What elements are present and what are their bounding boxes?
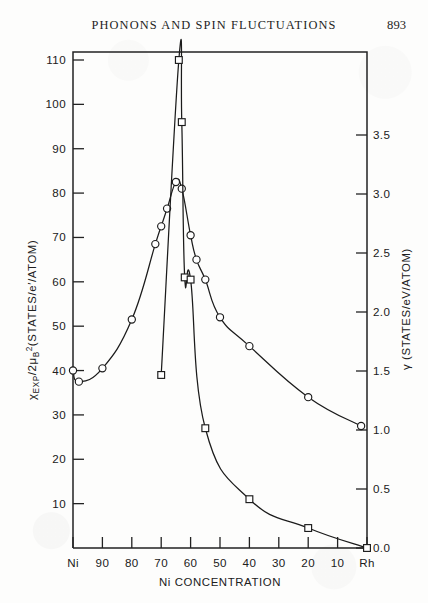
x-axis-tick-label: 70 [154, 556, 168, 569]
data-point-marker [75, 378, 82, 385]
y-axis-left-tick-label: 60 [52, 275, 66, 288]
x-axis-tick-label: 80 [125, 556, 139, 569]
y-axis-right-tick-label: 0.5 [373, 482, 390, 495]
series-line [73, 179, 361, 426]
y-axis-right-tick-label: 3.0 [373, 187, 390, 200]
y-axis-right-tick-label: 2.0 [373, 305, 390, 318]
data-point-marker [216, 314, 223, 321]
data-point-marker [193, 256, 200, 263]
susceptibility-gamma-chart: 110100908070605040302010 3.53.02.52.01.5… [0, 0, 428, 603]
data-point-marker [364, 545, 371, 552]
y-axis-left-tick-label: 20 [52, 452, 66, 465]
data-point-marker [358, 422, 365, 429]
y-axis-left-ticks: 110100908070605040302010 [45, 53, 84, 510]
data-point-marker [69, 367, 76, 374]
data-point-marker [152, 241, 159, 248]
y-axis-right-tick-label: 1.0 [373, 423, 390, 436]
series-line [161, 39, 367, 548]
y-axis-left-tick-label: 30 [52, 408, 66, 421]
x-axis-tick-label: 60 [184, 556, 198, 569]
y-axis-left-title: χEXP/2μB2(STATES/e′/ATOM) [25, 240, 41, 400]
y-axis-left-tick-label: 70 [52, 230, 66, 243]
x-axis-ticks: Ni908070605040302010Rh [67, 537, 375, 569]
x-axis-tick-label: 20 [301, 556, 315, 569]
data-point-marker [172, 178, 179, 185]
data-point-marker [202, 276, 209, 283]
y-axis-left-tick-label: 100 [45, 97, 66, 110]
data-point-marker [175, 57, 182, 64]
x-axis-tick-label: Ni [67, 556, 79, 569]
y-axis-left-tick-label: 80 [52, 186, 66, 199]
x-axis-tick-label: Rh [359, 556, 375, 569]
x-axis-tick-label: 50 [213, 556, 227, 569]
figure-page: PHONONS AND SPIN FLUCTUATIONS 893 110100… [0, 0, 428, 603]
x-axis-tick-label: 40 [243, 556, 257, 569]
y-axis-right-tick-label: 1.5 [373, 364, 390, 377]
y-axis-right-tick-label: 2.5 [373, 246, 390, 259]
data-point-marker [246, 496, 253, 503]
y-axis-left-tick-label: 50 [52, 319, 66, 332]
data-point-marker [128, 316, 135, 323]
y-axis-right-ticks: 3.53.02.52.01.51.00.50.0 [356, 128, 390, 554]
y-axis-left-tick-label: 90 [52, 142, 66, 155]
x-axis-tick-label: 30 [272, 556, 286, 569]
data-point-marker [187, 276, 194, 283]
y-axis-right-tick-label: 3.5 [373, 128, 390, 141]
data-series [158, 39, 371, 551]
y-axis-left-tick-label: 10 [52, 497, 66, 510]
svg-text:γ (STATES/eV/ATOM): γ (STATES/eV/ATOM) [400, 248, 412, 370]
data-point-marker [158, 372, 165, 379]
y-axis-left-tick-label: 110 [46, 53, 66, 66]
x-axis-title: Ni CONCENTRATION [159, 576, 281, 588]
x-axis-tick-label: 90 [96, 556, 110, 569]
data-point-marker [178, 185, 185, 192]
plot-frame [73, 52, 367, 548]
data-series-layer [69, 39, 370, 551]
x-axis-tick-label: 10 [331, 556, 345, 569]
y-axis-right-title: γ (STATES/eV/ATOM) [400, 248, 412, 370]
data-point-marker [202, 425, 209, 432]
data-point-marker [305, 525, 312, 532]
y-axis-right-tick-label: 0.0 [373, 541, 390, 554]
data-series [69, 178, 364, 429]
data-point-marker [178, 119, 185, 126]
data-point-marker [246, 343, 253, 350]
data-point-marker [158, 223, 165, 230]
data-point-marker [99, 365, 106, 372]
y-axis-left-tick-label: 40 [52, 364, 66, 377]
svg-text:χEXP/2μB2(STATES/e′/ATOM): χEXP/2μB2(STATES/e′/ATOM) [25, 240, 41, 400]
data-point-marker [187, 232, 194, 239]
data-point-marker [305, 394, 312, 401]
